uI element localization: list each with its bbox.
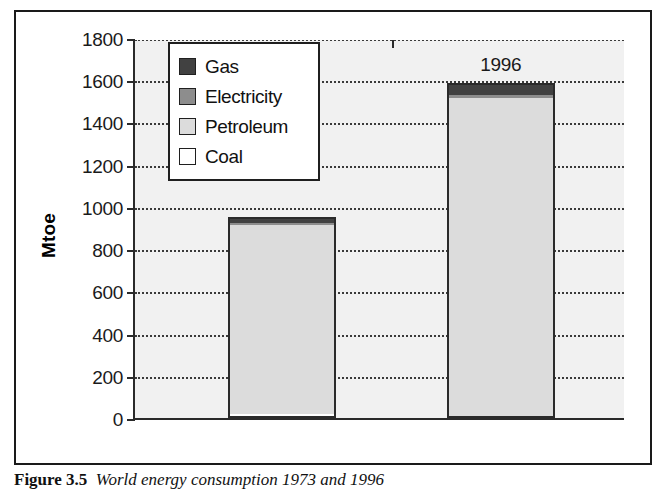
y-axis-tick	[127, 335, 135, 337]
gas-swatch	[179, 58, 196, 75]
legend-label: Coal	[205, 147, 242, 166]
y-axis-tick	[127, 81, 135, 83]
bar-segment-coal	[447, 416, 555, 418]
legend-item-coal: Coal	[179, 141, 309, 171]
y-axis-tick	[127, 292, 135, 294]
bar-stack	[447, 40, 555, 418]
y-axis-tick	[127, 377, 135, 379]
electricity-swatch	[179, 88, 196, 105]
y-axis-tick-label: 800	[92, 240, 123, 262]
bar-segment-gas	[228, 217, 336, 222]
y-axis-tick	[127, 250, 135, 252]
x-axis-tick	[392, 40, 394, 48]
legend-item-petroleum: Petroleum	[179, 111, 309, 141]
y-axis-tick	[127, 39, 135, 41]
y-axis-tick-label: 400	[92, 325, 123, 347]
legend-item-electricity: Electricity	[179, 81, 309, 111]
y-axis-tick	[127, 166, 135, 168]
bar-segment-petroleum	[228, 224, 336, 414]
y-axis-tick-label: 1600	[82, 71, 123, 93]
y-axis-tick-label: 600	[92, 282, 123, 304]
petroleum-swatch	[179, 118, 196, 135]
y-axis-tick-label: 0	[113, 409, 123, 431]
y-axis-tick-label: 200	[92, 367, 123, 389]
y-axis-tick-label: 1000	[82, 198, 123, 220]
bar-segment-coal	[228, 414, 336, 418]
y-axis-tick	[127, 419, 135, 421]
y-axis-tick-label: 1200	[82, 156, 123, 178]
y-axis-title: Mtoe	[38, 213, 60, 258]
coal-swatch	[179, 148, 196, 165]
legend-label: Petroleum	[205, 117, 288, 136]
y-axis-tick	[127, 208, 135, 210]
caption-text: World energy consumption 1973 and 1996	[96, 470, 384, 489]
figure-frame: Mtoe 020040060080010001200140016001800 1…	[14, 10, 652, 465]
bar-segment-electricity	[228, 223, 336, 225]
legend-label: Gas	[205, 57, 239, 76]
y-axis-tick-label: 1400	[82, 113, 123, 135]
legend-item-gas: Gas	[179, 51, 309, 81]
bar-segment-electricity	[447, 95, 555, 98]
bar-segment-petroleum	[447, 98, 555, 416]
y-axis-tick-label: 1800	[82, 29, 123, 51]
y-axis-tick	[127, 123, 135, 125]
caption-label: Figure 3.5	[14, 470, 87, 489]
legend-label: Electricity	[205, 87, 282, 106]
figure-caption: Figure 3.5 World energy consumption 1973…	[14, 470, 664, 489]
plot-area: 020040060080010001200140016001800 197319…	[133, 40, 624, 420]
bar-segment-gas	[447, 83, 555, 95]
x-axis-tick-label: 1996	[480, 54, 521, 76]
chart-legend: GasElectricityPetroleumCoal	[168, 42, 320, 181]
